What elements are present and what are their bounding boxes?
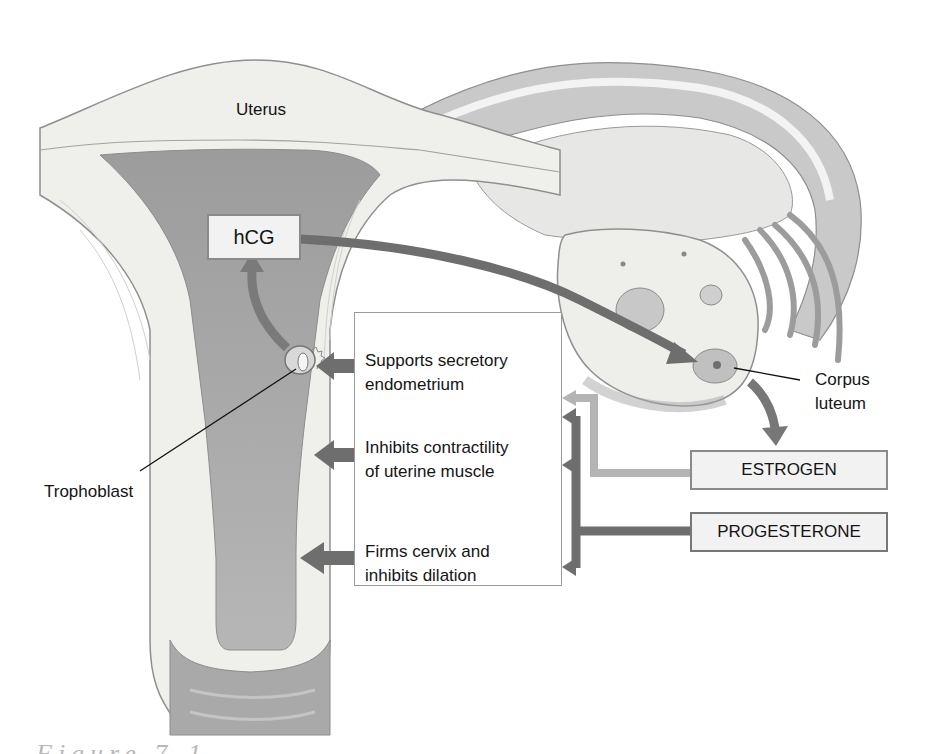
effect-3-line2: inhibits dilation (365, 564, 490, 588)
effect-item-3: Firms cervix and inhibits dilation (365, 540, 490, 588)
effect-1-line2: endometrium (365, 373, 508, 397)
corpus-luteum-label-line2: luteum (815, 394, 866, 414)
estrogen-label: ESTROGEN (741, 460, 836, 480)
estrogen-box: ESTROGEN (690, 450, 888, 490)
figure-caption-partial: Figure 7-1 (36, 741, 207, 754)
effect-item-1: Supports secretory endometrium (365, 349, 508, 397)
effect-2-line1: Inhibits contractility (365, 436, 509, 460)
corpus-luteum-to-estrogen-arrow (750, 382, 775, 428)
ovary (557, 229, 758, 407)
diagram-canvas: Uterus Trophoblast Corpus luteum hCG EST… (0, 0, 929, 754)
trophoblast-label: Trophoblast (44, 482, 133, 502)
progesterone-label: PROGESTERONE (717, 522, 861, 542)
effect-3-line1: Firms cervix and (365, 540, 490, 564)
effect-item-2: Inhibits contractility of uterine muscle (365, 436, 509, 484)
uterus-label: Uterus (236, 100, 286, 120)
effect-1-line1: Supports secretory (365, 349, 508, 373)
effect-2-line2: of uterine muscle (365, 460, 509, 484)
hcg-box: hCG (207, 214, 301, 260)
hcg-label: hCG (233, 226, 274, 249)
corpus-luteum-label-line1: Corpus (815, 370, 870, 390)
progesterone-box: PROGESTERONE (690, 512, 888, 552)
